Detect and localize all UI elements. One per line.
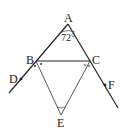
angle-mark-circle-c2 [88,65,90,67]
label-angle-a: 72° [61,32,75,43]
angle-arc-e [57,107,65,108]
angle-mark-dot-b1 [34,65,36,67]
line-ad [9,24,68,93]
label-e: E [57,116,64,130]
label-a: A [64,11,73,25]
angle-mark-dot-b2 [40,63,42,65]
label-f: F [108,78,115,92]
point-d [20,78,23,81]
angle-mark-circle-c1 [84,64,86,66]
label-c: C [92,53,100,67]
label-d: D [9,72,18,86]
segment-ce [61,61,90,115]
point-f [104,84,107,87]
label-b: B [26,53,34,67]
geometry-diagram: A 72° B C D F E [0,0,127,137]
